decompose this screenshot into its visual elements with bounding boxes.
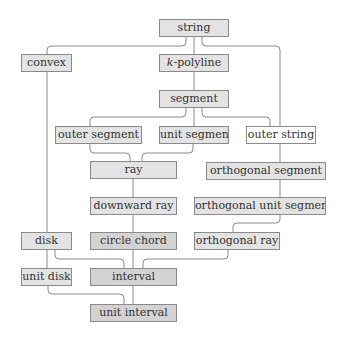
- node-downward-ray: downward ray: [90, 197, 177, 215]
- inclusion-diagram: string k-polyline convex segment outer s…: [0, 0, 343, 337]
- edge-string-outerstring: [202, 37, 280, 126]
- edge-unitsegment-ray: [142, 144, 193, 161]
- edge-segment-outersegment: [90, 108, 186, 126]
- node-orthogonal-unit-segment: orthogonal unit segment: [194, 197, 326, 215]
- node-disk: disk: [21, 232, 72, 250]
- node-circle-chord: circle chord: [90, 232, 177, 250]
- edge-orthunitsegment-orthray: [233, 215, 280, 232]
- k-polyline-suffix: -polyline: [173, 56, 221, 69]
- node-convex: convex: [21, 54, 72, 72]
- edge-disk-interval: [55, 250, 124, 268]
- node-orthogonal-segment: orthogonal segment: [206, 162, 326, 180]
- node-unit-interval: unit interval: [90, 304, 177, 322]
- edge-orthray-interval: [143, 250, 228, 268]
- node-k-polyline: k-polyline: [159, 54, 229, 72]
- node-orthogonal-ray: orthogonal ray: [194, 232, 280, 250]
- node-unit-segment: unit segment: [159, 126, 229, 144]
- node-outer-string: outer string: [246, 126, 316, 144]
- edge-outersegment-ray: [90, 144, 130, 161]
- node-ray: ray: [90, 161, 177, 179]
- edge-segment-outerstring-b: [202, 108, 270, 126]
- node-string: string: [159, 19, 229, 37]
- node-unit-disk: unit disk: [21, 268, 72, 286]
- edge-unitdisk-unitinterval: [48, 286, 124, 304]
- node-interval: interval: [90, 268, 177, 286]
- edge-string-convex: [47, 37, 186, 54]
- node-outer-segment: outer segment: [55, 126, 142, 144]
- node-segment: segment: [159, 90, 229, 108]
